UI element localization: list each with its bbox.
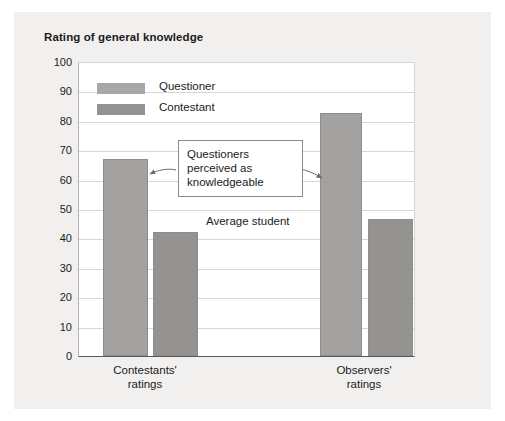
y-tick-label-60: 60 [30,174,72,186]
bar-observers-questioner [320,113,362,356]
y-axis: 100 90 80 70 60 50 40 30 20 10 0 [28,62,72,357]
bar-observers-contestant [368,219,413,356]
x-category-contestants-ratings: Contestants' ratings [75,363,215,391]
y-tick-label-40: 40 [30,232,72,244]
callout-line-2: perceived as [187,161,294,175]
y-tick-label-100: 100 [30,56,72,68]
legend-item-questioner: Questioner [97,80,267,96]
y-tick-label-10: 10 [30,321,72,333]
y-tick-label-90: 90 [30,85,72,97]
x-category-observers-line1: Observers' [294,363,434,377]
chart-legend: Questioner Contestant [97,80,267,122]
callout-line-3: knowledgeable [187,175,294,189]
x-category-observers-ratings: Observers' ratings [294,363,434,391]
legend-label-contestant: Contestant [159,101,215,113]
y-tick-label-50: 50 [30,203,72,215]
y-tick-label-30: 30 [30,262,72,274]
bar-contestants-contestant [153,232,198,356]
annotation-average-student: Average student [206,215,290,227]
x-category-contestants-line2: ratings [75,377,215,391]
x-category-contestants-line1: Contestants' [75,363,215,377]
chart-figure: Rating of general knowledge 100 90 80 70… [0,0,505,421]
chart-title: Rating of general knowledge [44,31,203,43]
callout-line-1: Questioners [187,147,294,161]
x-category-observers-line2: ratings [294,377,434,391]
y-tick-label-80: 80 [30,115,72,127]
legend-swatch-questioner [97,83,145,94]
y-tick-label-20: 20 [30,291,72,303]
legend-item-contestant: Contestant [97,101,267,117]
annotation-callout: Questioners perceived as knowledgeable [178,140,303,197]
y-tick-label-70: 70 [30,144,72,156]
legend-swatch-contestant [97,104,145,115]
bar-contestants-questioner [103,159,148,357]
legend-label-questioner: Questioner [159,80,215,92]
y-tick-label-0: 0 [30,350,72,362]
